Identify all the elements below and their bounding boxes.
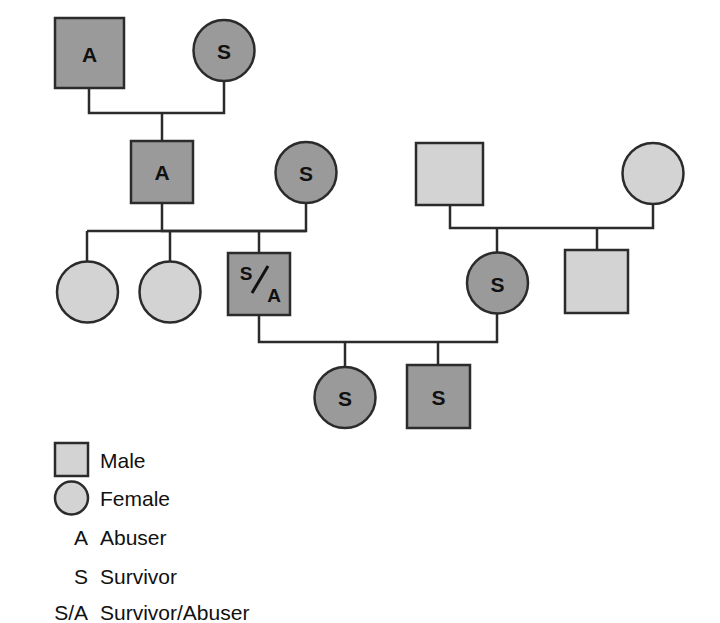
node-g1-male[interactable]: A <box>55 18 124 88</box>
node-g1-female[interactable]: S <box>194 20 255 81</box>
connector-lines <box>87 81 653 367</box>
legend-female-label: Female <box>100 487 170 510</box>
legend-abuser-key: A <box>74 526 88 549</box>
legend-survivor-label: Survivor <box>100 565 177 588</box>
legend-survivor-abuser-key: S/A <box>54 601 88 623</box>
node-g1-female-label: S <box>217 40 231 63</box>
legend-male-label: Male <box>100 449 146 472</box>
node-g2-male-abuser[interactable]: A <box>131 141 193 203</box>
legend-item-survivor: S Survivor <box>74 565 177 588</box>
node-g2-female-right[interactable] <box>623 143 684 204</box>
node-g3-female-survivor-label: S <box>490 273 504 296</box>
node-g3-female-1[interactable] <box>57 262 118 323</box>
node-g3-female-2[interactable] <box>140 262 201 323</box>
legend-item-male: Male <box>55 443 146 476</box>
node-g4-male-survivor-label: S <box>431 386 445 409</box>
legend-male-square-icon <box>55 443 88 476</box>
node-g4-female-survivor-label: S <box>338 387 352 410</box>
node-g2-male-abuser-label: A <box>154 161 169 184</box>
genogram-figure: A S A S S <box>0 0 720 623</box>
legend-survivor-abuser-label: Survivor/Abuser <box>100 601 249 623</box>
legend: Male Female A Abuser S Survivor S/A Surv… <box>54 443 249 623</box>
node-g2-female-survivor-label: S <box>299 162 313 185</box>
node-g3-male-right[interactable] <box>565 250 628 313</box>
node-g3-male-survivor-abuser[interactable]: S A <box>228 253 290 315</box>
connector-g3-couple <box>259 313 497 342</box>
legend-survivor-key: S <box>74 565 88 588</box>
connector-g2-left-couple <box>162 203 306 231</box>
node-g3-male-sa-label-abuser: A <box>267 285 281 306</box>
node-g4-male-survivor[interactable]: S <box>407 365 470 428</box>
node-g2-male-right[interactable] <box>416 143 483 205</box>
legend-item-female: Female <box>55 482 170 515</box>
node-g3-female-survivor[interactable]: S <box>467 253 528 314</box>
node-g3-male-sa-label-survivor: S <box>240 263 253 284</box>
connector-g2-right-couple <box>450 204 653 228</box>
legend-item-survivor-abuser: S/A Survivor/Abuser <box>54 601 249 623</box>
node-g1-male-label: A <box>82 43 97 66</box>
legend-abuser-label: Abuser <box>100 526 167 549</box>
node-g4-female-survivor[interactable]: S <box>315 367 376 428</box>
node-g2-female-survivor[interactable]: S <box>276 142 337 203</box>
genogram-canvas: A S A S S <box>0 0 720 623</box>
legend-item-abuser: A Abuser <box>74 526 167 549</box>
legend-female-circle-icon <box>55 482 88 515</box>
